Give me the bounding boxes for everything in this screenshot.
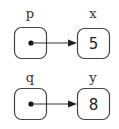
pointer-row-p: p x 5 xyxy=(15,6,110,59)
variable-label-y: y xyxy=(88,70,97,85)
arrow-head-icon xyxy=(68,101,77,108)
variable-label-x: x xyxy=(89,6,97,21)
variable-value-y: 8 xyxy=(89,96,99,114)
variable-value-x: 5 xyxy=(89,35,99,53)
arrow-head-icon xyxy=(68,40,77,47)
pointer-row-q: q y 8 xyxy=(15,70,110,120)
pointer-label-q: q xyxy=(26,70,34,85)
pointer-label-p: p xyxy=(26,6,34,21)
pointer-diagram: p x 5 q y 8 xyxy=(0,0,119,129)
